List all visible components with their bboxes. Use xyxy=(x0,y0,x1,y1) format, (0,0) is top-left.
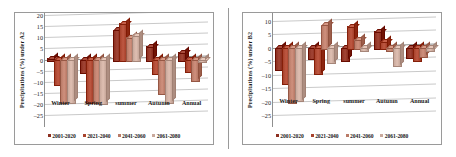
bar-group-winter xyxy=(44,13,77,127)
bar xyxy=(295,13,302,127)
y-tick-label: –5 xyxy=(265,58,271,65)
y-tick-label: 20 xyxy=(37,12,43,19)
legend-a2: 2001-20202021-20402041-20602061-2080 xyxy=(15,127,213,144)
bar-group-autumn xyxy=(142,13,175,127)
y-tick-label: 0 xyxy=(40,56,43,63)
x-axis-label: Winter xyxy=(44,100,77,106)
y-tick-label: 10 xyxy=(37,34,43,41)
bar-group-spring xyxy=(77,13,110,127)
bar xyxy=(198,13,205,127)
legend-swatch xyxy=(152,134,155,137)
chart-panel-a2: Precipitations (%) under A2 20151050–5–1… xyxy=(0,0,228,157)
legend-label: 2021-2040 xyxy=(315,133,338,139)
y-tick-label: –25 xyxy=(262,112,271,119)
bar xyxy=(165,13,172,127)
legend-item: 2041-2060 xyxy=(346,133,374,139)
x-axis-label: summer xyxy=(338,98,371,104)
bar xyxy=(132,13,139,127)
x-axis-labels-b2: WinterSpringsummerAutumnAnnual xyxy=(272,98,436,104)
plot-area-a2: WinterSpringsummerAutumnAnnual xyxy=(44,13,208,127)
bar xyxy=(360,13,367,127)
legend-label: 2041-2060 xyxy=(122,133,145,139)
y-axis-ticks-b2: 1050–5–10–15–20–25 xyxy=(256,13,272,127)
legend-label: 2001-2020 xyxy=(52,133,75,139)
precipitation-change-figure: Precipitations (%) under A2 20151050–5–1… xyxy=(0,0,456,157)
y-tick-label: –25 xyxy=(34,112,43,119)
y-tick-label: 5 xyxy=(268,31,271,38)
y-tick-label: –20 xyxy=(262,98,271,105)
plot-area-b2: WinterSpringsummerAutumnAnnual xyxy=(272,13,436,127)
bar-group-summer xyxy=(110,13,143,127)
bar-group-winter xyxy=(272,13,305,127)
y-tick-label: –10 xyxy=(34,78,43,85)
legend-swatch xyxy=(276,134,279,137)
legend-item: 2061-2080 xyxy=(380,133,408,139)
y-tick-label: –5 xyxy=(37,67,43,74)
x-axis-label: Annual xyxy=(403,98,436,104)
legend-item: 2041-2060 xyxy=(118,133,146,139)
legend-label: 2021-2040 xyxy=(87,133,110,139)
bar-group-spring xyxy=(305,13,338,127)
bar-group-summer xyxy=(338,13,371,127)
bar-group-annual xyxy=(403,13,436,127)
legend-swatch xyxy=(346,134,349,137)
y-tick-label: 10 xyxy=(265,17,271,24)
legend-label: 2061-2080 xyxy=(157,133,180,139)
x-axis-label: Annual xyxy=(175,100,208,106)
y-axis-title-b2: Precipitations (%) under B2 xyxy=(243,13,256,127)
legend-swatch xyxy=(311,134,314,137)
chart-panel-b2: Precipitations (%) under B2 1050–5–10–15… xyxy=(228,0,456,157)
y-tick-label: 0 xyxy=(268,44,271,51)
legend-swatch xyxy=(48,134,51,137)
legend-label: 2001-2020 xyxy=(280,133,303,139)
x-axis-label: Spring xyxy=(305,98,338,104)
legend-label: 2061-2080 xyxy=(385,133,408,139)
legend-swatch xyxy=(118,134,121,137)
bar-groups-a2 xyxy=(44,13,208,127)
bar xyxy=(426,13,433,127)
bar-group-autumn xyxy=(370,13,403,127)
legend-swatch xyxy=(83,134,86,137)
legend-item: 2001-2020 xyxy=(276,133,304,139)
bar xyxy=(67,13,74,127)
y-axis-ticks-a2: 20151050–5–10–15–20–25 xyxy=(28,13,44,127)
legend-item: 2001-2020 xyxy=(48,133,76,139)
bar-group-annual xyxy=(175,13,208,127)
y-tick-label: –15 xyxy=(262,85,271,92)
x-axis-label: Spring xyxy=(77,100,110,106)
bar xyxy=(99,13,106,127)
bar xyxy=(327,13,334,127)
legend-swatch xyxy=(380,134,383,137)
legend-item: 2021-2040 xyxy=(311,133,339,139)
y-axis-title-a2: Precipitations (%) under A2 xyxy=(15,13,28,127)
legend-item: 2061-2080 xyxy=(152,133,180,139)
y-tick-label: –15 xyxy=(34,89,43,96)
bar xyxy=(393,13,400,127)
bar-groups-b2 xyxy=(272,13,436,127)
legend-label: 2041-2060 xyxy=(350,133,373,139)
x-axis-labels-a2: WinterSpringsummerAutumnAnnual xyxy=(44,100,208,106)
y-tick-label: –10 xyxy=(262,71,271,78)
x-axis-label: Autumn xyxy=(142,100,175,106)
legend-item: 2021-2040 xyxy=(83,133,111,139)
panel-divider xyxy=(228,8,229,149)
x-axis-label: Autumn xyxy=(370,98,403,104)
y-tick-label: 5 xyxy=(40,45,43,52)
legend-b2: 2001-20202021-20402041-20602061-2080 xyxy=(243,127,441,144)
y-tick-label: 15 xyxy=(37,23,43,30)
x-axis-label: summer xyxy=(110,100,143,106)
y-tick-label: –20 xyxy=(34,100,43,107)
x-axis-label: Winter xyxy=(272,98,305,104)
